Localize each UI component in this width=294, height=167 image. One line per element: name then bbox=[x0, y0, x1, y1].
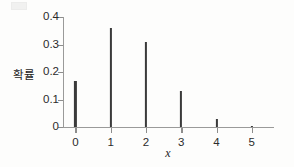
y-tick-label: 0.2 bbox=[43, 65, 59, 78]
plot-area: 00.10.20.30.4 bbox=[63, 17, 273, 127]
stem-bar bbox=[110, 28, 112, 127]
stem-bar bbox=[251, 126, 253, 127]
x-tick-mark bbox=[75, 128, 76, 133]
stem-bar bbox=[145, 42, 147, 127]
stem-bar bbox=[180, 91, 182, 127]
x-tick-mark bbox=[252, 128, 253, 133]
stem-bar bbox=[215, 119, 217, 127]
y-axis-title: 확률 bbox=[13, 66, 35, 82]
y-tick-label: 0.1 bbox=[43, 93, 59, 106]
probability-mass-function-chart: 00.10.20.30.4 012345 확률 x bbox=[0, 0, 294, 167]
x-tick-mark bbox=[181, 128, 182, 133]
x-tick-label: 3 bbox=[178, 136, 184, 149]
stem-bar bbox=[74, 81, 76, 127]
x-tick-mark bbox=[217, 128, 218, 133]
y-tick-label: 0.4 bbox=[43, 10, 59, 23]
x-tick-mark bbox=[111, 128, 112, 133]
x-tick-label: 5 bbox=[249, 136, 255, 149]
x-tick-label: 0 bbox=[72, 136, 78, 149]
data-series-stems bbox=[63, 17, 273, 127]
y-tick-label: 0.3 bbox=[43, 38, 59, 51]
x-tick-label: 4 bbox=[213, 136, 219, 149]
scan-artifact bbox=[11, 2, 27, 10]
x-axis-title: x bbox=[165, 146, 170, 161]
x-tick-label: 2 bbox=[143, 136, 149, 149]
y-tick-label: 0 bbox=[53, 120, 59, 133]
x-tick-mark bbox=[146, 128, 147, 133]
x-tick-label: 1 bbox=[107, 136, 113, 149]
